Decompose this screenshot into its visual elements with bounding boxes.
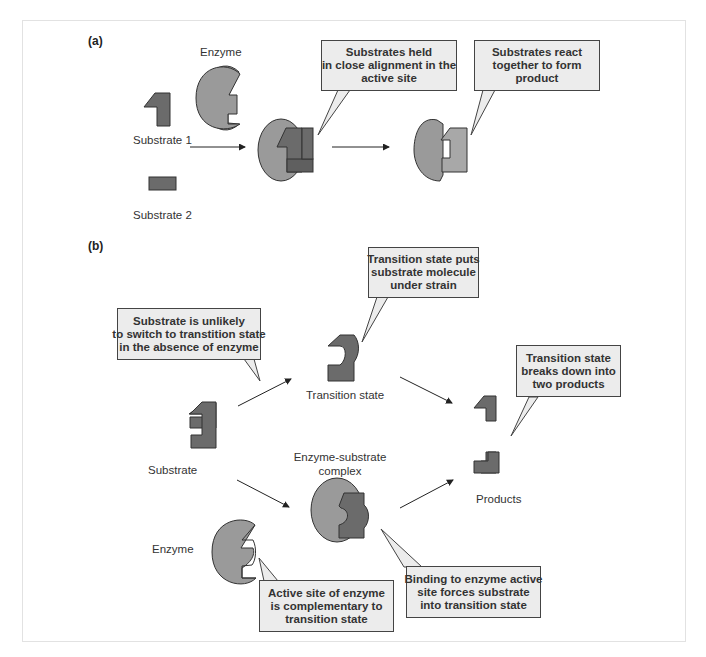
complex-label-line2: complex [290,464,390,478]
callout-substrates-held: Substrates held in close alignment in th… [321,40,457,91]
arrow-complex-to-products [400,480,453,508]
substrate2-label: Substrate 2 [133,208,192,222]
callout-tail-unlikely [244,359,260,381]
product1-shape-b [474,396,496,421]
callout-tail-breaks [511,397,538,436]
callout-line: breaks down into [521,365,616,378]
callout-line: Substrates react [492,46,582,59]
callout-transition-strain: Transition state puts substrate molecule… [368,247,479,298]
enzyme-substrate-complex-a [258,119,313,181]
callout-line: Substrate is unlikely [133,315,245,328]
callout-line: two products [532,378,604,391]
complex-label: Enzyme-substrate complex [290,450,390,478]
callout-line: under strain [390,279,456,292]
transition-state-label: Transition state [306,388,384,402]
callout-line: into transition state [420,599,527,612]
arrow-substrate-to-transition [238,379,291,406]
callout-tail-held [318,90,350,135]
callout-tail-strain [362,297,388,342]
callout-line: Binding to enzyme active [404,573,542,586]
panel-label-b: (b) [88,239,103,253]
callout-line: together to form [493,59,582,72]
callout-line: to switch to transtition state [112,328,265,341]
enzyme-shape-a-body [196,67,240,129]
products-label: Products [476,492,521,506]
substrate1-shape-a [144,93,170,126]
callout-line: substrate molecule [371,266,476,279]
callout-line: Transition state [526,352,611,365]
arrow-substrate-to-complex [237,480,289,507]
callout-line: transition state [285,613,367,626]
callout-tail-active-site [259,558,278,581]
enzyme-label-b: Enzyme [152,542,194,556]
callout-tail-binding [381,529,422,567]
enzyme-substrate-complex-b [311,478,369,542]
product-shape-a [414,119,467,181]
callout-binding: Binding to enzyme active site forces sub… [406,566,541,618]
callout-line: product [516,72,559,85]
complex-label-line1: Enzyme-substrate [290,450,390,464]
substrate-label-b: Substrate [148,463,197,477]
diagram-graphics [0,0,706,657]
arrow-transition-to-products [400,377,452,403]
callout-substrates-react: Substrates react together to form produc… [474,40,600,91]
callout-line: in the absence of enzyme [119,341,258,354]
substrate2-shape-a [149,177,176,190]
callout-line: site forces substrate [417,586,530,599]
callout-line: is complementary to [271,600,383,613]
callout-transition-breaks: Transition state breaks down into two pr… [516,345,621,397]
callout-line: Transition state puts [367,253,479,266]
enzyme-shape-b [212,520,256,584]
callout-line: in close alignment in the [322,59,456,72]
callout-active-site: Active site of enzyme is complementary t… [259,580,394,632]
callout-line: active site [361,72,417,85]
substrate1-label: Substrate 1 [133,133,192,147]
panel-label-a: (a) [88,34,103,48]
callout-substrate-unlikely: Substrate is unlikely to switch to trans… [117,308,261,360]
callout-line: Substrates held [346,46,432,59]
callout-line: Active site of enzyme [268,587,385,600]
transition-state-shape [328,335,359,381]
callout-tail-react [471,90,495,135]
enzyme-label-a: Enzyme [200,45,242,59]
